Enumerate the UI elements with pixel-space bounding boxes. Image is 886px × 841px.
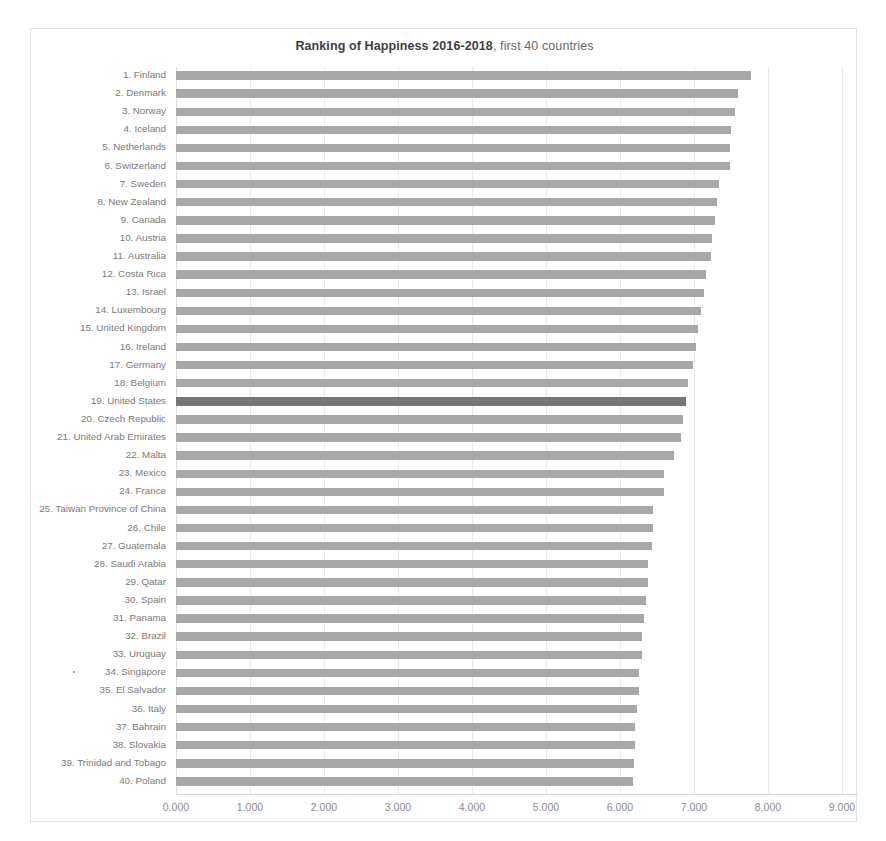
category-label: 24. France — [119, 485, 166, 497]
category-label: 4. Iceland — [124, 123, 166, 135]
x-tick-label: 5.000 — [511, 801, 581, 813]
chart-container: Ranking of Happiness 2016-2018, first 40… — [30, 28, 857, 822]
x-tick-label: 4.000 — [437, 801, 507, 813]
category-label: 2. Denmark — [115, 87, 166, 99]
category-label: 12. Costa Rica — [102, 268, 166, 280]
bar — [176, 289, 704, 297]
bar-row: 12. Costa Rica — [31, 266, 858, 284]
bar — [176, 216, 715, 224]
bar-row: 27. Guatemala — [31, 538, 858, 556]
bar — [176, 687, 639, 695]
category-label: 6. Switzerland — [104, 160, 166, 172]
category-label: 15. United Kingdom — [80, 322, 166, 334]
category-label: 11. Australia — [113, 250, 166, 262]
bar-row: 4. Iceland — [31, 121, 858, 139]
category-label: 27. Guatemala — [102, 540, 166, 552]
category-label: 5. Netherlands — [102, 141, 166, 153]
x-tick-label: 1.000 — [215, 801, 285, 813]
bar — [176, 560, 648, 568]
bar-row: 33. Uruguay — [31, 646, 858, 664]
bar-row: 8. New Zealand — [31, 194, 858, 212]
category-label: 20. Czech Republic — [81, 413, 166, 425]
bar — [176, 614, 644, 622]
bar — [176, 433, 681, 441]
bar — [176, 506, 653, 514]
bar-row: 40. Poland — [31, 773, 858, 791]
bar — [176, 542, 652, 550]
bar — [176, 777, 633, 785]
category-label: 22. Malta — [126, 449, 166, 461]
x-tick-label: 6.000 — [585, 801, 655, 813]
bar-row: 36. Italy — [31, 701, 858, 719]
bar — [176, 108, 735, 116]
bar-row: 30. Spain — [31, 592, 858, 610]
category-label: 39. Trinidad and Tobago — [61, 757, 166, 769]
category-label: 28. Saudi Arabia — [94, 558, 166, 570]
category-label: 32. Brazil — [125, 630, 166, 642]
bar-row: 17. Germany — [31, 357, 858, 375]
bar-row: 38. Slovakia — [31, 737, 858, 755]
bar — [176, 180, 719, 188]
bar — [176, 252, 711, 260]
x-tick-label: 7.000 — [659, 801, 729, 813]
bar-row: 22. Malta — [31, 447, 858, 465]
category-label: 40. Poland — [119, 775, 166, 787]
bar — [176, 162, 730, 170]
bar-row: 29. Qatar — [31, 574, 858, 592]
bar-row: 37. Bahrain — [31, 719, 858, 737]
category-label: 31. Panama — [113, 612, 166, 624]
bar-row: 11. Australia — [31, 248, 858, 266]
bar — [176, 343, 696, 351]
category-label: 23. Mexico — [119, 467, 166, 479]
x-tick-label: 3.000 — [363, 801, 433, 813]
category-label: 29. Qatar — [125, 576, 166, 588]
category-label: 36. Italy — [132, 703, 166, 715]
category-label: 10. Austria — [120, 232, 166, 244]
category-label: 34. Singapore — [105, 666, 166, 678]
bar — [176, 470, 664, 478]
bar-row: 6. Switzerland — [31, 158, 858, 176]
stray-mark — [73, 671, 75, 673]
bar-row: 19. United States — [31, 393, 858, 411]
category-label: 30. Spain — [125, 594, 166, 606]
bar-row: 10. Austria — [31, 230, 858, 248]
bar — [176, 578, 648, 586]
x-tick-label: 0.000 — [141, 801, 211, 813]
x-tick-label: 9.000 — [807, 801, 877, 813]
bar-row: 25. Taiwan Province of China — [31, 501, 858, 519]
bar — [176, 89, 738, 97]
bar — [176, 307, 701, 315]
bar-row: 32. Brazil — [31, 628, 858, 646]
bar-row: 21. United Arab Emirates — [31, 429, 858, 447]
bar — [176, 361, 693, 369]
bar-row: 15. United Kingdom — [31, 320, 858, 338]
bar — [176, 397, 686, 405]
x-tick-label: 2.000 — [289, 801, 359, 813]
bar-row: 7. Sweden — [31, 176, 858, 194]
category-label: 8. New Zealand — [97, 196, 166, 208]
bar-row: 9. Canada — [31, 212, 858, 230]
bar-row: 23. Mexico — [31, 465, 858, 483]
bar — [176, 651, 642, 659]
bar — [176, 488, 664, 496]
bar-row: 20. Czech Republic — [31, 411, 858, 429]
category-label: 7. Sweden — [120, 178, 166, 190]
bar-row: 18. Belgium — [31, 375, 858, 393]
x-tick-label: 8.000 — [733, 801, 803, 813]
bar — [176, 234, 712, 242]
bar — [176, 270, 706, 278]
bar-row: 28. Saudi Arabia — [31, 556, 858, 574]
bar — [176, 144, 730, 152]
category-label: 17. Germany — [109, 359, 166, 371]
bar — [176, 71, 751, 79]
bar-row: 39. Trinidad and Tobago — [31, 755, 858, 773]
bar-row: 2. Denmark — [31, 85, 858, 103]
category-label: 35. El Salvador — [100, 684, 166, 696]
bar-row: 3. Norway — [31, 103, 858, 121]
category-label: 25. Taiwan Province of China — [39, 503, 166, 515]
bar-row: 24. France — [31, 483, 858, 501]
bar — [176, 325, 698, 333]
category-label: 26. Chile — [127, 522, 166, 534]
bar — [176, 415, 683, 423]
category-label: 38. Slovakia — [113, 739, 166, 751]
